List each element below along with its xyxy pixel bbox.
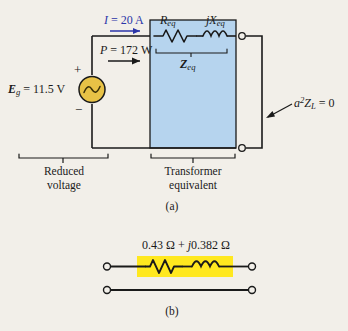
reduced-voltage-brace [19,154,108,163]
impedance-label: Zeq [180,58,196,72]
panel-label-b: (b) [152,305,192,319]
source-minus-sign: − [75,103,82,116]
resistor-label: Req [160,14,176,28]
current-arrow-head [133,28,140,34]
reduced-voltage-line1: Reduced [44,165,84,177]
b-terminal-bottom-left [104,287,111,294]
b-impedance-value-label: 0.43 Ω + j0.382 Ω [142,239,230,251]
b-terminal-bottom-right [249,287,256,294]
reduced-voltage-caption: Reduced voltage [29,165,99,192]
panel-label-a: (a) [152,200,192,214]
transformer-equivalent-caption: Transformer equivalent [150,165,236,192]
source-plus-sign: + [74,63,81,76]
current-label: I = 20 A [104,14,144,26]
circuit-figure: I = 20 A P = 172 W Eg = 11.5 V + − Req j… [0,0,348,331]
source-voltage-label: Eg = 11.5 V [8,83,65,97]
inductor-label: jXeq [206,14,225,28]
transformer-equivalent-box [150,20,236,148]
load-impedance-label: a2ZL = 0 [294,96,335,110]
power-label: P = 172 W [100,44,152,56]
terminal-top-a [239,33,246,40]
terminal-bottom-a [239,145,246,152]
reduced-voltage-line2: voltage [47,179,81,191]
transformer-equivalent-line1: Transformer [164,165,221,177]
b-terminal-top-left [104,263,111,270]
load-pointer-head [266,111,275,118]
power-arrow-head [132,58,140,65]
transformer-equivalent-line2: equivalent [169,179,217,191]
b-terminal-top-right [249,263,256,270]
short-circuit-loop [246,36,262,148]
transformer-equivalent-brace [151,154,235,163]
